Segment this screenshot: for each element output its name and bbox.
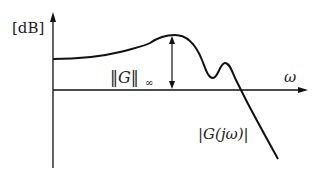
y-axis-arrow-icon <box>50 12 56 22</box>
x-axis-label: ω <box>284 68 296 86</box>
x-axis-arrow-icon <box>298 87 308 93</box>
hinf-norm-label: ‖G‖ <box>110 68 139 87</box>
bode-magnitude-diagram: [dB] ω ‖G‖ ∞ |G(jω)| <box>0 0 312 177</box>
hinf-arrow-top-icon <box>169 36 175 44</box>
curve-label: |G(jω)| <box>198 125 249 143</box>
hinf-arrow-bottom-icon <box>169 81 175 89</box>
hinf-norm-subscript: ∞ <box>145 77 153 88</box>
y-unit-label: [dB] <box>12 19 44 37</box>
